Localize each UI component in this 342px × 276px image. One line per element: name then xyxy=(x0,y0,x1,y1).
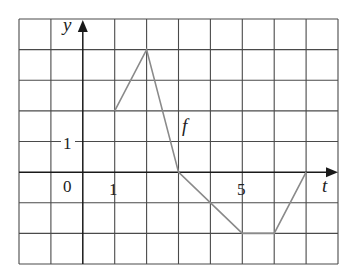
function-graph: y t 0 1 5 1 f xyxy=(0,0,342,276)
y-axis-label: y xyxy=(61,14,72,35)
origin-label: 0 xyxy=(63,177,72,196)
t-axis-arrow-icon xyxy=(326,167,338,177)
curve-label-f: f xyxy=(182,115,190,136)
y-axis-arrow-icon xyxy=(78,20,88,32)
x-tick-label-5: 5 xyxy=(237,180,246,199)
y-tick-label-1: 1 xyxy=(63,134,72,153)
t-axis-label: t xyxy=(322,175,328,196)
x-tick-label-1: 1 xyxy=(109,180,118,199)
